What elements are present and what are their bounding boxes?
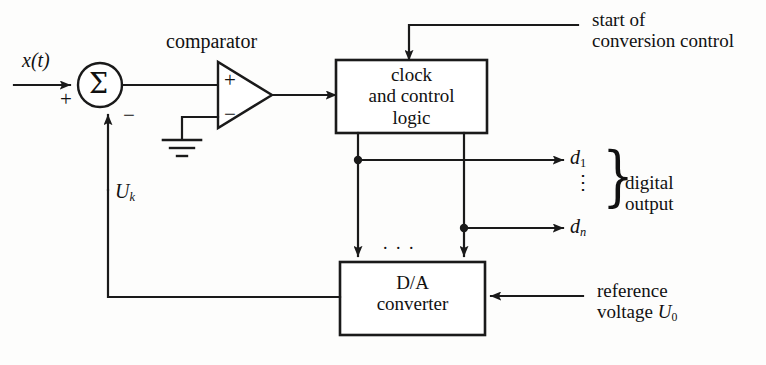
digital-output-label: digital output <box>625 172 674 215</box>
comparator-plus-terminal: + <box>224 69 236 93</box>
input-signal-label: x(t) <box>22 49 50 71</box>
bit-dn-subscript: n <box>580 225 586 239</box>
clock-control-block-text: clock and control logic <box>336 64 487 128</box>
reference-voltage-line-2: voltage U0 <box>597 301 677 324</box>
reference-voltage-symbol: U <box>658 301 672 322</box>
digital-output-line-2: output <box>625 193 674 214</box>
reference-voltage-word: voltage <box>597 301 653 322</box>
start-conversion-line-2: conversion control <box>592 30 734 51</box>
clock-control-line-2: and control <box>336 85 487 106</box>
junction-dot-dn <box>460 224 468 232</box>
bit-d1-symbol: d <box>570 146 580 168</box>
bits-vertical-ellipsis: ⋮ <box>573 178 591 186</box>
dac-block-text: D/A converter <box>340 272 485 315</box>
wire-dac-feedback-path <box>108 190 340 297</box>
junction-dot-d1 <box>354 156 362 164</box>
comparator-label: comparator <box>166 30 257 52</box>
comparator-minus-terminal: − <box>224 103 236 127</box>
reference-voltage-label: reference voltage U0 <box>597 280 677 325</box>
dac-line-1: D/A <box>340 272 485 293</box>
clock-control-line-3: logic <box>336 107 487 128</box>
reference-voltage-subscript: 0 <box>671 312 677 325</box>
wire-start-conversion <box>409 25 578 60</box>
sum-plus-sign: + <box>60 88 72 112</box>
wire-ground-to-comparator <box>182 117 218 140</box>
input-signal-x: x <box>22 49 31 71</box>
feedback-voltage-symbol: U <box>115 180 129 202</box>
start-conversion-line-1: start of <box>592 9 734 30</box>
adc-block-diagram: x(t) + Σ − comparator + − Uk clock and c… <box>0 0 766 365</box>
bit-d1-subscript: 1 <box>580 156 586 170</box>
feedback-voltage-subscript: k <box>129 190 135 204</box>
clock-control-line-1: clock <box>336 64 487 85</box>
dac-line-2: converter <box>340 293 485 314</box>
reference-voltage-line-1: reference <box>597 280 677 301</box>
sum-symbol: Σ <box>89 69 108 99</box>
bit-dn-label: dn <box>570 215 586 240</box>
bus-ellipsis-label: . . . <box>383 233 416 253</box>
bit-d1-label: d1 <box>570 146 586 171</box>
digital-output-line-1: digital <box>625 172 674 193</box>
start-conversion-label: start of conversion control <box>592 9 734 52</box>
sum-minus-sign: − <box>123 104 135 128</box>
feedback-voltage-label: Uk <box>115 180 135 205</box>
bit-dn-symbol: d <box>570 215 580 237</box>
input-signal-arg: (t) <box>31 49 50 71</box>
